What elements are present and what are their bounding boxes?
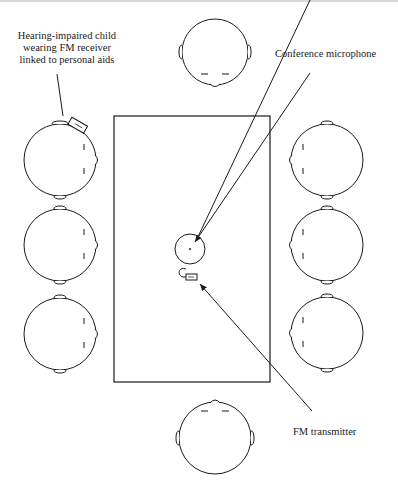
head-right-1 [290, 121, 364, 199]
head-right-3 [290, 294, 364, 372]
head-bottom [176, 400, 254, 474]
head-left-1 [24, 117, 98, 199]
conference-microphone-icon [175, 234, 205, 264]
child-label: Hearing-impaired child wearing FM receiv… [14, 30, 120, 66]
fm-transmitter-icon [179, 268, 197, 280]
head-right-2 [290, 206, 364, 284]
seating-diagram [0, 0, 398, 499]
microphone-label: Conference microphone [275, 48, 376, 60]
child-label-line-3: linked to personal aids [14, 54, 120, 66]
head-top [179, 19, 251, 87]
child-label-line-1: Hearing-impaired child [14, 30, 120, 42]
head-left-3 [24, 295, 98, 373]
child-label-line-2: wearing FM receiver [14, 42, 120, 54]
head-left-2 [24, 206, 98, 284]
transmitter-label: FM transmitter [293, 426, 356, 438]
table [114, 116, 270, 382]
child-pointer-line [57, 74, 63, 116]
